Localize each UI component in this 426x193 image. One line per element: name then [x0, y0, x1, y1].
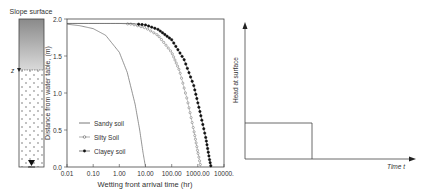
x-tick-label: 100.00 [162, 170, 182, 177]
filled-circle-marker [185, 63, 187, 65]
open-circle-marker [198, 156, 200, 158]
filled-circle-marker [196, 97, 198, 99]
filled-circle-marker [154, 27, 156, 29]
arrow-right-icon [409, 157, 416, 162]
y-tick-label: 2.0 [53, 16, 62, 23]
filled-circle-marker [186, 67, 188, 69]
plot-frame [67, 19, 224, 167]
filled-circle-marker [204, 132, 206, 134]
series-layer [67, 23, 212, 167]
head-pulse-line [245, 123, 312, 159]
open-circle-marker [199, 163, 201, 165]
filled-circle-marker [183, 59, 185, 61]
open-circle-marker [171, 53, 173, 55]
filled-circle-marker [208, 155, 210, 157]
open-circle-icon [83, 136, 86, 139]
open-circle-marker [173, 56, 175, 58]
open-circle-marker [195, 142, 197, 144]
arrival-time-chart: 0.0 0.5 1.0 1.5 2.0 Distance from water … [44, 16, 234, 190]
open-circle-marker [174, 59, 176, 61]
open-circle-marker [191, 122, 193, 124]
filled-circle-marker [197, 102, 199, 104]
filled-circle-marker [177, 49, 179, 51]
slope-surface-label: Slope surface [10, 8, 53, 16]
open-circle-marker [153, 32, 155, 34]
filled-circle-marker [202, 123, 204, 125]
open-circle-marker [182, 82, 184, 84]
filled-circle-marker [205, 136, 207, 138]
filled-circle-marker [168, 37, 170, 39]
open-circle-marker [179, 72, 181, 74]
open-circle-marker [133, 24, 135, 26]
filled-circle-marker [189, 76, 191, 78]
x-axis: 0.01 0.10 1.00 10.00 100.00 1000.00 1000… [61, 164, 234, 189]
open-circle-marker [184, 92, 186, 94]
filled-circle-marker [206, 144, 208, 146]
open-circle-marker [165, 44, 167, 46]
open-circle-marker [194, 134, 196, 136]
filled-circle-marker [175, 45, 177, 47]
open-circle-marker [178, 68, 180, 70]
open-circle-marker [186, 97, 188, 99]
filled-circle-marker [191, 80, 193, 82]
open-circle-marker [196, 149, 198, 151]
filled-circle-marker [199, 110, 201, 112]
filled-circle-marker [159, 30, 161, 32]
open-circle-marker [158, 36, 160, 38]
x-tick-label: 1.00 [113, 170, 126, 177]
filled-circle-marker [157, 28, 159, 30]
filled-circle-marker [170, 39, 172, 41]
open-circle-marker [193, 131, 195, 133]
filled-circle-marker [205, 140, 207, 142]
legend: Sandy soil Silty Soil Clayey soil [79, 120, 126, 156]
open-circle-marker [196, 146, 198, 148]
open-circle-marker [187, 102, 189, 104]
series-sandy-soil [67, 24, 146, 167]
legend-silty-label: Silty Soil [94, 134, 119, 142]
z-label: z [10, 67, 15, 74]
open-circle-marker [146, 28, 148, 30]
open-circle-marker [197, 152, 199, 154]
filled-circle-marker [193, 84, 195, 86]
y-axis-label: Distance from water table, (m) [44, 46, 52, 140]
filled-circle-marker [179, 52, 181, 54]
filled-circle-marker [166, 35, 168, 37]
open-circle-marker [188, 107, 190, 109]
y-tick-label: 1.0 [53, 90, 62, 97]
filled-circle-marker [173, 42, 175, 44]
open-circle-marker [163, 41, 165, 43]
filled-circle-marker [188, 71, 190, 73]
figure: Slope surface z 0.0 0.5 1.0 1.5 2.0 Dist… [0, 0, 426, 193]
filled-circle-marker [206, 147, 208, 149]
open-circle-marker [143, 26, 145, 28]
filled-circle-marker [200, 115, 202, 117]
filled-circle-marker [208, 158, 210, 160]
open-circle-marker [156, 34, 158, 36]
dry-zone [19, 70, 44, 167]
time-axis-label: Time t [387, 163, 406, 170]
x-axis-label: Wetting front arrival time (hr) [98, 180, 193, 189]
filled-circle-marker [181, 55, 183, 57]
filled-circle-marker [198, 106, 200, 108]
filled-circle-marker [151, 26, 153, 28]
filled-circle-marker [144, 24, 146, 26]
open-circle-marker [167, 47, 169, 49]
series-clayey-soil [67, 23, 211, 167]
x-tick-label: 0.10 [87, 170, 100, 177]
open-circle-marker [189, 112, 191, 114]
wetted-zone [19, 19, 44, 70]
x-tick-label: 0.01 [61, 170, 74, 177]
arrow-up-icon [243, 22, 248, 29]
filled-circle-marker [141, 23, 143, 25]
head-pulse-diagram: Head at surface Time t [232, 22, 416, 170]
open-circle-marker [160, 38, 162, 40]
filled-circle-icon [83, 150, 86, 153]
open-circle-marker [150, 30, 152, 32]
filled-circle-marker [209, 161, 211, 163]
legend-sandy-label: Sandy soil [94, 120, 125, 128]
x-tick-label: 10.00 [137, 170, 154, 177]
y-tick-label: 1.5 [53, 53, 62, 60]
filled-circle-marker [210, 165, 212, 167]
filled-circle-marker [194, 89, 196, 91]
filled-circle-marker [147, 25, 149, 27]
